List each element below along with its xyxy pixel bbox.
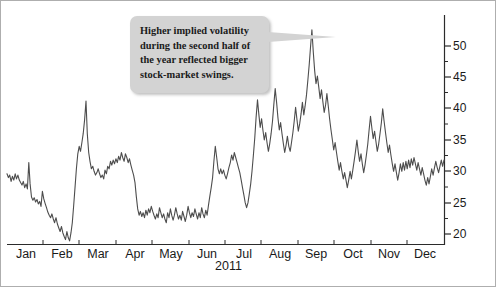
x-tick-label-may: May <box>159 248 183 261</box>
y-axis-ticks <box>445 46 452 234</box>
x-tick-label-apr: Apr <box>125 248 144 261</box>
y-tick-label-20: 20 <box>453 228 466 240</box>
callout-text-line: stock-market swings. <box>140 68 262 83</box>
y-tick-label-35: 35 <box>453 134 466 146</box>
y-tick-label-50: 50 <box>453 40 466 52</box>
volatility-callout-text: Higher implied volatilityduring the seco… <box>140 24 262 82</box>
y-tick-label-45: 45 <box>453 71 466 83</box>
x-tick-label-sep: Sep <box>305 248 327 261</box>
volatility-callout: Higher implied volatilityduring the seco… <box>130 16 269 93</box>
y-tick-label-30: 30 <box>453 165 466 177</box>
x-tick-label-nov: Nov <box>378 248 400 261</box>
x-tick-label-oct: Oct <box>343 248 362 261</box>
y-tick-label-25: 25 <box>453 197 466 209</box>
callout-text-line: Higher implied volatility <box>140 24 262 39</box>
x-tick-label-dec: Dec <box>414 248 436 261</box>
x-tick-label-feb: Feb <box>51 248 73 261</box>
x-tick-label-aug: Aug <box>269 248 291 261</box>
callout-text-line: the year reflected bigger <box>140 53 262 68</box>
volatility-callout-pointer <box>268 32 336 42</box>
y-tick-label-40: 40 <box>453 102 466 114</box>
volatility-chart: 50 45 40 35 30 25 20 Jan Feb Mar Apr May… <box>0 0 496 287</box>
callout-text-line: during the second half of <box>140 39 262 54</box>
x-tick-label-mar: Mar <box>87 248 109 261</box>
x-tick-label-jan: Jan <box>16 248 36 261</box>
x-axis-title-year: 2011 <box>215 259 242 273</box>
x-axis-ticks <box>43 240 407 245</box>
